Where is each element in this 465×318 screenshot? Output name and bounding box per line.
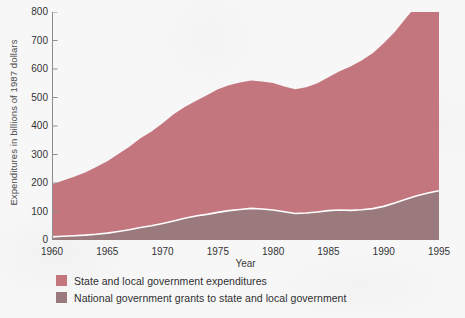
legend-item-state-local: State and local government expenditures bbox=[56, 272, 456, 289]
x-tick-label: 1980 bbox=[262, 247, 284, 257]
y-tick-label: 600 bbox=[22, 64, 48, 74]
x-tick-label: 1995 bbox=[428, 247, 450, 257]
stacked-area-plot bbox=[52, 12, 439, 240]
x-tick-label: 1960 bbox=[41, 247, 63, 257]
chart-page: Expenditures in billions of 1987 dollars… bbox=[0, 0, 465, 318]
y-tick-label: 500 bbox=[22, 93, 48, 103]
chart-legend: State and local government expenditures … bbox=[56, 272, 456, 306]
x-axis-title: Year bbox=[52, 258, 439, 269]
y-tick-label: 100 bbox=[22, 207, 48, 217]
legend-label-national-grants: National government grants to state and … bbox=[74, 292, 346, 304]
y-tick-label: 400 bbox=[22, 121, 48, 131]
y-axis-tick-labels: 0100200300400500600700800 bbox=[20, 0, 48, 260]
area-state-local-expenditures bbox=[52, 12, 439, 240]
x-tick-label: 1985 bbox=[317, 247, 339, 257]
y-axis-title-text: Expenditures in billions of 1987 dollars bbox=[8, 39, 19, 205]
legend-item-national-grants: National government grants to state and … bbox=[56, 289, 456, 306]
legend-swatch-national-grants bbox=[56, 292, 67, 303]
x-axis-tick-labels: 19601965197019751980198519901995 bbox=[0, 243, 465, 257]
y-tick-label: 700 bbox=[22, 36, 48, 46]
plot-area bbox=[52, 12, 439, 240]
y-tick-label: 200 bbox=[22, 178, 48, 188]
legend-swatch-state-local bbox=[56, 275, 67, 286]
x-tick-label: 1975 bbox=[207, 247, 229, 257]
x-tick-label: 1970 bbox=[151, 247, 173, 257]
legend-label-state-local: State and local government expenditures bbox=[74, 275, 267, 287]
x-tick-label: 1965 bbox=[96, 247, 118, 257]
x-tick-label: 1990 bbox=[373, 247, 395, 257]
y-tick-label: 800 bbox=[22, 7, 48, 17]
y-tick-label: 300 bbox=[22, 150, 48, 160]
